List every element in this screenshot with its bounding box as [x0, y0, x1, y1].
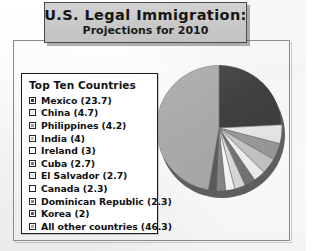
legend-item: Ireland (3) [28, 144, 152, 157]
page-subtitle: Projections for 2010 [83, 25, 209, 38]
legend-item: China (4.7) [28, 107, 152, 120]
legend-item: Cuba (2.7) [28, 157, 152, 170]
legend-swatch-icon [29, 160, 36, 167]
legend-item: Canada (2.3) [28, 182, 152, 195]
legend-item-label: Ireland (3) [41, 145, 96, 156]
legend-item: All other countries (46.3) [28, 220, 152, 233]
legend-item: Dominican Republic (2.3) [28, 195, 152, 208]
legend-item-label: All other countries (46.3) [41, 221, 172, 232]
legend-swatch-icon [29, 198, 36, 205]
legend-item-label: Korea (2) [41, 208, 89, 219]
legend-item-label: Mexico (23.7) [41, 95, 112, 106]
title-plaque: U.S. Legal Immigration: Projections for … [44, 2, 247, 43]
legend-swatch-icon [29, 109, 36, 116]
legend-item-label: Dominican Republic (2.3) [41, 196, 172, 207]
legend-list: Mexico (23.7)China (4.7)Philippines (4.2… [28, 94, 152, 233]
legend-swatch-icon [29, 147, 36, 154]
legend-swatch-icon [29, 223, 36, 230]
pie-slice [156, 65, 219, 190]
legend-box: Top Ten Countries Mexico (23.7)China (4.… [21, 73, 158, 234]
legend-swatch-icon [29, 210, 36, 217]
legend-swatch-icon [29, 122, 36, 129]
legend-item-label: Philippines (4.2) [41, 120, 126, 131]
page-title: U.S. Legal Immigration: [44, 8, 247, 23]
legend-item-label: India (4) [41, 133, 85, 144]
pie-svg [156, 65, 282, 191]
legend-swatch-icon [29, 97, 36, 104]
legend-item: El Salvador (2.7) [28, 170, 152, 183]
legend-item: Korea (2) [28, 207, 152, 220]
legend-item-label: China (4.7) [41, 107, 98, 118]
pie-slice [219, 65, 282, 128]
legend-item-label: Cuba (2.7) [41, 158, 95, 169]
pie-slices [156, 65, 282, 191]
legend-item: India (4) [28, 132, 152, 145]
legend-item: Mexico (23.7) [28, 94, 152, 107]
legend-item: Philippines (4.2) [28, 119, 152, 132]
legend-swatch-icon [29, 172, 36, 179]
legend-title: Top Ten Countries [29, 79, 152, 91]
legend-swatch-icon [29, 135, 36, 142]
legend-item-label: Canada (2.3) [41, 183, 108, 194]
legend-swatch-icon [29, 185, 36, 192]
legend-item-label: El Salvador (2.7) [41, 170, 127, 181]
